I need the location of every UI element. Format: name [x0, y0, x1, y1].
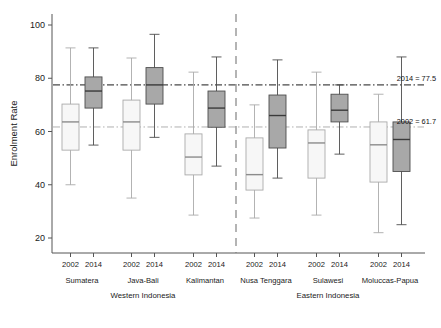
x-year-label-2014-0: 2014 [85, 260, 102, 269]
box-sumatera-2002 [62, 48, 79, 185]
enrolment-rate-boxplot: 20406080100Enrolment Rate200220142002201… [0, 0, 441, 328]
x-region-label-western-indonesia: Western Indonesia [111, 291, 177, 300]
annotation-2014-reference: 2014 = 77.5 [397, 74, 436, 83]
x-year-label-2014-5: 2014 [393, 260, 410, 269]
box-sulawesi-2014 [331, 85, 348, 154]
box-body [370, 122, 387, 182]
y-axis-title: Enrolment Rate [8, 100, 19, 166]
y-tick-label-20: 20 [35, 233, 45, 243]
x-year-label-2002-1: 2002 [123, 260, 140, 269]
x-year-label-2002-5: 2002 [370, 260, 387, 269]
x-region-label-eastern-indonesia: Eastern Indonesia [297, 291, 361, 300]
box-nusa-tenggara-2002 [246, 105, 263, 218]
box-sumatera-2014 [85, 48, 102, 145]
box-body [331, 94, 348, 122]
box-nusa-tenggara-2014 [269, 60, 286, 178]
box-moluccas-papua-2002 [370, 94, 387, 232]
x-year-label-2014-2: 2014 [208, 260, 225, 269]
box-body [146, 68, 163, 104]
x-year-label-2002-3: 2002 [246, 260, 263, 269]
x-year-label-2002-0: 2002 [62, 260, 79, 269]
box-java-bali-2002 [123, 58, 140, 198]
x-group-label-moluccas-papua: Moluccas-Papua [362, 276, 419, 285]
box-java-bali-2014 [146, 34, 163, 137]
box-body [308, 130, 325, 178]
x-year-label-2002-2: 2002 [185, 260, 202, 269]
annotation-2002-reference: 2002 = 61.7 [397, 117, 436, 126]
box-body [393, 122, 410, 172]
box-kalimantan-2002 [185, 72, 202, 215]
x-year-label-2002-4: 2002 [308, 260, 325, 269]
y-tick-label-100: 100 [30, 20, 45, 30]
y-tick-label-40: 40 [35, 180, 45, 190]
x-group-label-sumatera: Sumatera [66, 276, 100, 285]
box-sulawesi-2002 [308, 72, 325, 215]
y-tick-label-80: 80 [35, 73, 45, 83]
x-group-label-kalimantan: Kalimantan [186, 276, 224, 285]
box-kalimantan-2014 [208, 57, 225, 166]
box-body [85, 77, 102, 108]
x-year-label-2014-3: 2014 [269, 260, 286, 269]
y-tick-label-60: 60 [35, 127, 45, 137]
x-year-label-2014-1: 2014 [146, 260, 163, 269]
box-body [185, 134, 202, 175]
box-body [62, 104, 79, 150]
box-body [123, 100, 140, 150]
box-body [246, 138, 263, 190]
x-year-label-2014-4: 2014 [331, 260, 348, 269]
x-group-label-nusa-tenggara: Nusa Tenggara [240, 276, 292, 285]
box-body [269, 95, 286, 148]
boxplot-figure: 20406080100Enrolment Rate200220142002201… [0, 0, 441, 328]
x-group-label-sulawesi: Sulawesi [313, 276, 344, 285]
x-group-label-java-bali: Java-Bali [127, 276, 159, 285]
box-body [208, 91, 225, 127]
